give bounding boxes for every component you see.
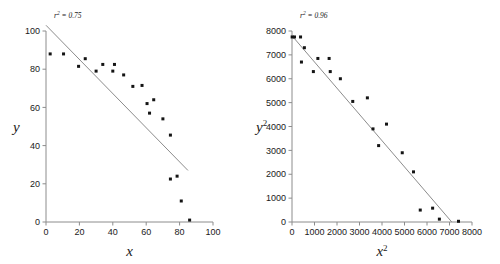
r-squared-annotation: r2 = 0.75 xyxy=(54,10,82,20)
x-axis-title: x2 xyxy=(375,243,387,260)
data-point xyxy=(176,175,179,178)
data-point xyxy=(372,127,375,130)
data-point xyxy=(438,218,441,221)
data-point xyxy=(351,100,354,103)
figure-container: 020406080100020406080100r2 = 0.75xy 0100… xyxy=(0,0,500,264)
data-point xyxy=(412,170,415,173)
data-point xyxy=(377,144,380,147)
y-tick-label: 4000 xyxy=(266,122,286,132)
data-point xyxy=(111,70,114,73)
data-point xyxy=(95,70,98,73)
data-point xyxy=(84,57,87,60)
regression-line xyxy=(46,25,188,170)
data-point xyxy=(366,96,369,99)
data-point xyxy=(316,57,319,60)
data-point xyxy=(303,46,306,49)
x-tick-label: 7000 xyxy=(439,227,459,237)
x-tick-label: 2000 xyxy=(327,227,347,237)
y-tick-label: 100 xyxy=(25,26,40,36)
data-point xyxy=(146,102,149,105)
y-tick-label: 0 xyxy=(281,217,286,227)
y-tick-label: 20 xyxy=(30,179,40,189)
x-tick-label: 6000 xyxy=(417,227,437,237)
scatter-plot-ysq-vs-xsq: 0100020003000400050006000700080000100020… xyxy=(250,0,500,264)
data-point xyxy=(169,134,172,137)
data-point xyxy=(131,85,134,88)
x-tick-label: 8000 xyxy=(462,227,482,237)
x-tick-label: 5000 xyxy=(394,227,414,237)
data-point xyxy=(401,151,404,154)
data-point xyxy=(188,219,191,222)
y-axis-title: y xyxy=(11,119,20,135)
x-tick-label: 20 xyxy=(74,227,84,237)
y-tick-label: 5000 xyxy=(266,98,286,108)
data-point xyxy=(431,207,434,210)
y-tick-label: 1000 xyxy=(266,193,286,203)
data-point xyxy=(328,57,331,60)
scatter-plot-y-vs-x: 020406080100020406080100r2 = 0.75xy xyxy=(0,0,250,264)
x-tick-label: 80 xyxy=(175,227,185,237)
y-tick-label: 8000 xyxy=(266,26,286,36)
x-axis-title: x xyxy=(125,243,133,259)
data-point xyxy=(329,70,332,73)
data-point xyxy=(49,52,52,55)
data-point xyxy=(62,52,65,55)
y-tick-label: 6000 xyxy=(266,74,286,84)
data-point xyxy=(339,77,342,80)
data-point xyxy=(457,220,460,223)
data-point xyxy=(385,123,388,126)
data-point xyxy=(419,209,422,212)
data-point xyxy=(299,35,302,38)
data-point xyxy=(180,199,183,202)
y-tick-label: 0 xyxy=(35,217,40,227)
x-tick-label: 4000 xyxy=(372,227,392,237)
x-tick-label: 0 xyxy=(43,227,48,237)
data-point xyxy=(161,117,164,120)
data-point xyxy=(300,61,303,64)
x-tick-label: 40 xyxy=(108,227,118,237)
chart-panel-left: 020406080100020406080100r2 = 0.75xy xyxy=(0,0,250,264)
data-point xyxy=(152,98,155,101)
r-squared-annotation: r2 = 0.96 xyxy=(300,10,328,20)
y-tick-label: 40 xyxy=(30,141,40,151)
x-tick-label: 60 xyxy=(141,227,151,237)
data-point xyxy=(101,63,104,66)
x-tick-label: 100 xyxy=(205,227,220,237)
y-tick-label: 3000 xyxy=(266,146,286,156)
y-tick-label: 2000 xyxy=(266,169,286,179)
data-point xyxy=(77,65,80,68)
data-point xyxy=(312,70,315,73)
x-tick-label: 0 xyxy=(289,227,294,237)
y-axis-title: y2 xyxy=(254,118,267,135)
data-point xyxy=(169,178,172,181)
y-tick-label: 80 xyxy=(30,64,40,74)
y-tick-label: 60 xyxy=(30,103,40,113)
x-tick-label: 3000 xyxy=(349,227,369,237)
data-point xyxy=(148,112,151,115)
chart-panel-right: 0100020003000400050006000700080000100020… xyxy=(250,0,500,264)
y-tick-label: 7000 xyxy=(266,50,286,60)
x-tick-label: 1000 xyxy=(304,227,324,237)
data-point xyxy=(113,63,116,66)
data-point xyxy=(293,35,296,38)
data-point xyxy=(141,84,144,87)
data-point xyxy=(122,73,125,76)
